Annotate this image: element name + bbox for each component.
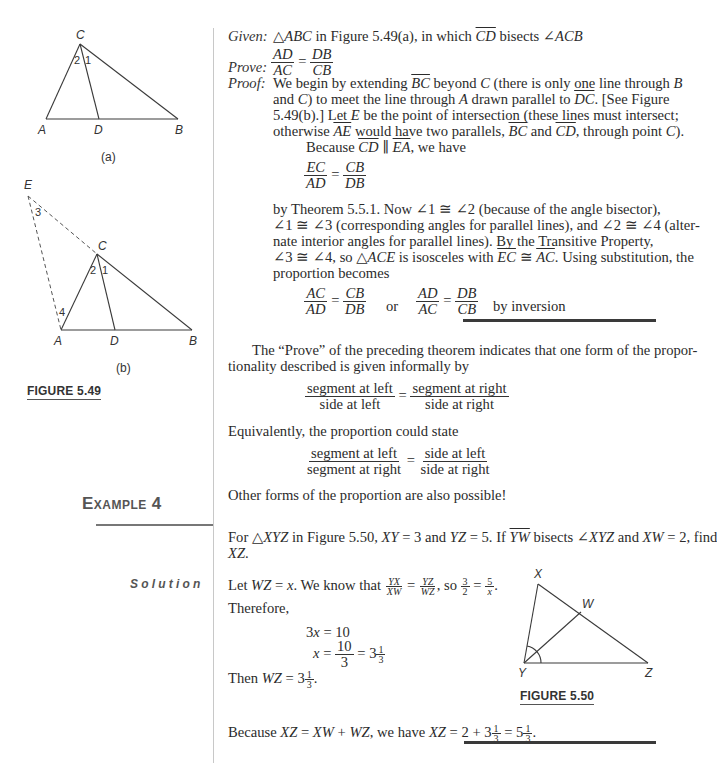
angle-label-3: 3 [35,206,41,218]
point-label-w: W [582,597,595,611]
proof-line-3: 5.49(b).] Let E be the point of intersec… [273,107,679,123]
proof-line-8: nate interior angles for parallel lines)… [273,233,653,249]
proof-line-5: Because CD ∥ EA, we have [306,139,466,155]
proof-line-10: proportion becomes [273,265,389,281]
given-statement: △ABC in Figure 5.49(a), in which CD bise… [273,28,583,44]
figure-5-50-caption: FIGURE 5.50 [520,689,594,705]
proof-line-1: We begin by extending BC beyond C (there… [273,75,682,91]
angle-label-1: 1 [102,264,108,276]
equation-x-value: x = 103 = 313 [313,639,385,670]
example-4-heading: EXAMPLE 4 [82,494,162,514]
point-label-b: B [189,334,197,348]
proof-line-9: ∠3 ≅ ∠4, so △ACE is isosceles with EC ≅ … [273,249,694,265]
example-problem-line-2: XZ. [228,545,249,561]
point-label-c: C [98,239,107,253]
proof-line-7: ∠1 ≅ ∠3 (corresponding angles for parall… [273,217,700,233]
proportion-ac-ad: ACAD = CBDB [304,286,366,317]
end-of-solution-rule [464,741,656,744]
prove-proportion: ADAC = DBCB [271,47,333,78]
angle-label-4: 4 [59,306,65,318]
proof-line-6: by Theorem 5.5.1. Now ∠1 ≅ ∠2 (because o… [273,201,661,217]
proof-line-4: otherwise AE would have two parallels, B… [273,123,684,139]
ray-yw: YW [510,529,530,545]
angle-label-2: 2 [90,264,96,276]
point-label-b: B [175,123,183,137]
solution-therefore: Therefore, [228,600,289,616]
prove-label: Prove: [228,59,267,76]
point-label-a: A [37,123,46,137]
informal-proportion-2: segment at leftsegment at right = side a… [305,446,491,477]
other-forms-text: Other forms of the proportion are also p… [228,487,506,503]
example-problem-line-1: For △XYZ in Figure 5.50, XY = 3 and YZ =… [228,529,717,545]
point-label-z: Z [644,666,653,680]
solution-label: Solution [130,577,204,591]
subfigure-label-a: (a) [101,150,116,164]
point-label-d: D [110,334,119,348]
column-divider [213,28,214,763]
point-label-x: X [533,567,543,581]
solution-then-wz: Then WZ = 313. [228,670,317,689]
given-label: Given: [228,28,268,45]
proportion-ad-ac: ADAC = DBCB [416,286,478,317]
example-heading-underline [96,524,213,526]
discussion-line-1: The “Prove” of the preceding theorem ind… [252,342,697,358]
point-label-e: E [24,180,33,192]
discussion-line-2: tionality described is given informally … [228,358,469,374]
figure-5-49a-diagram: C A D B 2 1 (a) [0,0,212,180]
angle-label-1: 1 [85,54,91,66]
point-label-c: C [76,28,85,42]
equivalently-text: Equivalently, the proportion could state [228,423,458,439]
informal-proportion-1: segment at leftside at left = segment at… [305,381,509,412]
or-text: or [386,298,398,314]
end-of-proof-rule [463,319,656,322]
point-label-a: A [53,334,62,348]
proof-label: Proof: [228,75,266,92]
point-label-y: Y [518,666,527,680]
ray-cd: CD [476,28,496,44]
figure-5-49-caption: FIGURE 5.49 [27,384,101,400]
solution-line-1: Let WZ = x. We know that YXXW = YZWZ, so… [228,577,498,596]
figure-5-50-diagram: X W Y Z [510,565,670,680]
angle-label-2: 2 [74,54,80,66]
by-inversion-text: by inversion [493,298,566,314]
subfigure-label-b: (b) [116,361,131,375]
figure-5-49b-diagram: E C A D B 3 2 1 4 (b) [0,180,212,380]
proportion-ec-ad: ECAD = CBDB [304,160,366,191]
point-label-d: D [94,123,103,137]
proof-line-2: and C) to meet the line through A drawn … [273,91,669,107]
